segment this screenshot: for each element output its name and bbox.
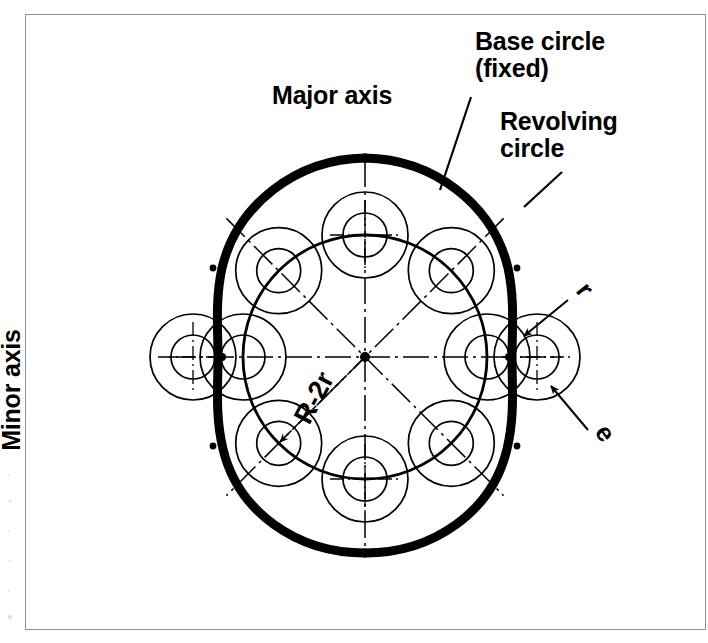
label-major-axis: Major axis bbox=[272, 82, 392, 109]
leader-revolving-circle bbox=[524, 172, 562, 207]
figure-root: R-2r r e Major axis Base circle (fixed) … bbox=[0, 0, 708, 643]
dimension-label-e: e bbox=[589, 419, 622, 448]
label-minor-axis: Minor axis bbox=[0, 290, 25, 490]
leader-base-circle bbox=[440, 97, 471, 190]
dimension-line-e bbox=[551, 386, 588, 430]
dimension-label-r-2r: R-2r bbox=[288, 366, 340, 428]
label-base-circle: Base circle (fixed) bbox=[475, 28, 605, 82]
dimension-label-r: r bbox=[570, 276, 600, 302]
dimension-line-r bbox=[524, 300, 568, 336]
label-revolving-circle: Revolving circle bbox=[500, 108, 618, 162]
